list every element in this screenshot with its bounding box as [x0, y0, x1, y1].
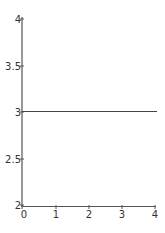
y-tick-label: 4	[15, 14, 21, 25]
x-tick-label: 1	[53, 209, 59, 220]
x-tick-labels: 0 1 2 3 4	[21, 209, 158, 220]
x-tick-label: 2	[86, 209, 92, 220]
y-tick-label: 2.5	[5, 154, 21, 165]
line-chart: 4 3.5 3 2.5 2 0 1 2 3 4	[0, 0, 165, 233]
x-tick-label: 0	[21, 209, 27, 220]
y-tick-labels: 4 3.5 3 2.5 2	[5, 14, 21, 211]
y-tick-label: 3.5	[5, 61, 21, 72]
x-tick-label: 3	[119, 209, 125, 220]
x-tick-label: 4	[152, 209, 158, 220]
y-tick-label: 3	[15, 107, 21, 118]
